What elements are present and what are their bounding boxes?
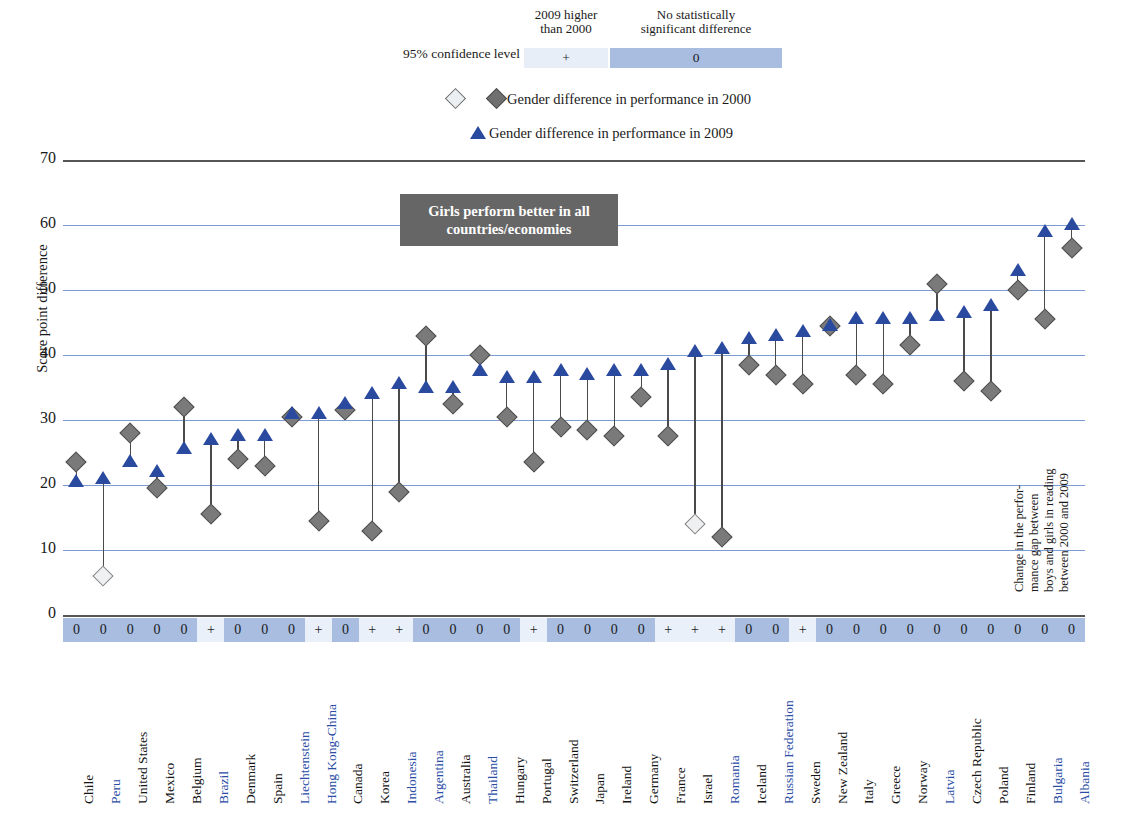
significance-marker: 0 xyxy=(171,618,198,642)
country-label: Spain xyxy=(270,773,286,804)
gridline-40 xyxy=(63,355,1085,356)
country-label: Ireland xyxy=(619,766,635,804)
country-label: Israel xyxy=(700,774,716,804)
marker-2000 xyxy=(308,510,329,531)
marker-2009 xyxy=(364,386,380,399)
marker-2000 xyxy=(900,335,921,356)
marker-2009 xyxy=(176,441,192,454)
marker-2009 xyxy=(95,470,111,483)
callout-box: Girls perform better in all countries/ec… xyxy=(400,194,618,246)
connector-line xyxy=(721,349,722,538)
significance-marker: + xyxy=(197,618,224,642)
significance-marker: 0 xyxy=(278,618,305,642)
marker-2000 xyxy=(684,513,705,534)
country-label: Switzerland xyxy=(566,740,582,804)
marker-2009 xyxy=(875,311,891,324)
country-label: Hungary xyxy=(512,757,528,804)
legend-series-2009: Gender difference in performance in 2009 xyxy=(470,125,733,142)
country-label: Albania xyxy=(1077,761,1093,804)
country-label: Japan xyxy=(592,773,608,804)
significance-marker: 0 xyxy=(601,618,628,642)
legend-swatch-plus: + xyxy=(524,48,608,68)
country-label: France xyxy=(673,767,689,804)
filled-diamond-icon xyxy=(486,88,507,109)
country-label: Korea xyxy=(377,771,393,804)
connector-line xyxy=(533,378,534,463)
marker-2000 xyxy=(1034,309,1055,330)
country-label: Russian Federation xyxy=(781,700,797,804)
country-label: Argentina xyxy=(431,750,447,804)
country-label: Bulgaria xyxy=(1050,758,1066,805)
significance-marker: + xyxy=(359,618,386,642)
marker-2000 xyxy=(1061,237,1082,258)
country-labels: ChilePeruUnited StatesMexicoBelgiumBrazi… xyxy=(63,646,1085,811)
marker-2000 xyxy=(147,478,168,499)
significance-marker: 0 xyxy=(951,618,978,642)
y-tick-20: 20 xyxy=(18,474,56,492)
significance-marker: 0 xyxy=(224,618,251,642)
marker-2009 xyxy=(1064,217,1080,230)
significance-marker: + xyxy=(305,618,332,642)
y-tick-40: 40 xyxy=(18,344,56,362)
marker-2009 xyxy=(848,311,864,324)
marker-2009 xyxy=(660,357,676,370)
marker-2000 xyxy=(980,380,1001,401)
significance-marker: 0 xyxy=(63,618,90,642)
marker-2000 xyxy=(658,426,679,447)
significance-marker: 0 xyxy=(466,618,493,642)
connector-line xyxy=(990,306,991,391)
marker-2000 xyxy=(415,325,436,346)
marker-2000 xyxy=(873,374,894,395)
country-label: Iceland xyxy=(754,764,770,804)
country-label: Indonesia xyxy=(404,752,420,804)
significance-marker: 0 xyxy=(251,618,278,642)
y-tick-10: 10 xyxy=(18,539,56,557)
marker-2000 xyxy=(200,504,221,525)
significance-marker: + xyxy=(655,618,682,642)
significance-marker: + xyxy=(520,618,547,642)
marker-2009 xyxy=(1010,262,1026,275)
country-label: Liechtenstein xyxy=(297,731,313,804)
significance-marker: 0 xyxy=(870,618,897,642)
country-label: Czech Republic xyxy=(969,718,985,804)
significance-marker: 0 xyxy=(924,618,951,642)
marker-2009 xyxy=(68,474,84,487)
marker-2009 xyxy=(633,363,649,376)
legend-series-2009-label: Gender difference in performance in 2009 xyxy=(489,125,733,141)
significance-marker: 0 xyxy=(144,618,171,642)
marker-2009 xyxy=(337,396,353,409)
significance-marker: 0 xyxy=(628,618,655,642)
marker-2009 xyxy=(902,311,918,324)
legend-series-2000: Gender difference in performance in 2000 xyxy=(448,91,751,108)
connector-line xyxy=(1044,232,1045,320)
marker-2000 xyxy=(953,370,974,391)
marker-2009 xyxy=(606,363,622,376)
marker-2009 xyxy=(391,376,407,389)
marker-2009 xyxy=(418,379,434,392)
marker-2000 xyxy=(1007,279,1028,300)
marker-2009 xyxy=(687,344,703,357)
marker-2009 xyxy=(499,370,515,383)
legend-swatch-zero: 0 xyxy=(610,48,782,68)
significance-marker: 0 xyxy=(1058,618,1085,642)
gridline-10 xyxy=(63,550,1085,551)
marker-2009 xyxy=(768,327,784,340)
significance-strip: 00000+000+0++0000+0000+++00+0000000000 xyxy=(63,618,1085,642)
country-label: Greece xyxy=(888,766,904,804)
country-label: Sweden xyxy=(808,761,824,804)
marker-2009 xyxy=(203,431,219,444)
connector-line xyxy=(318,414,319,521)
country-label: Canada xyxy=(350,764,366,804)
marker-2009 xyxy=(714,340,730,353)
legend-series-2000-label: Gender difference in performance in 2000 xyxy=(507,91,751,107)
marker-2009 xyxy=(526,370,542,383)
marker-2000 xyxy=(173,396,194,417)
country-label: Germany xyxy=(646,754,662,804)
y-tick-0: 0 xyxy=(18,604,56,622)
significance-marker: + xyxy=(386,618,413,642)
significance-marker: 0 xyxy=(1004,618,1031,642)
marker-2009 xyxy=(795,324,811,337)
significance-marker: 0 xyxy=(117,618,144,642)
marker-2009 xyxy=(983,298,999,311)
marker-2009 xyxy=(284,405,300,418)
